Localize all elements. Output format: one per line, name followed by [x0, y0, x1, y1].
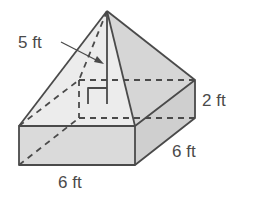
prism-front-face	[19, 126, 135, 165]
label-6ft-depth: 6 ft	[172, 142, 196, 161]
label-6ft-width: 6 ft	[58, 173, 82, 192]
composite-solid-diagram: 5 ft 2 ft 6 ft 6 ft	[0, 0, 253, 197]
label-5ft: 5 ft	[18, 33, 42, 52]
label-2ft: 2 ft	[202, 91, 226, 110]
